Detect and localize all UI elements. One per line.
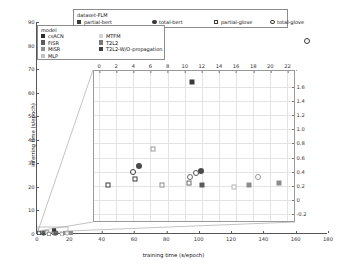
- inset-x-tick: 12: [199, 63, 206, 72]
- model-legend-entry[interactable]: FISR: [41, 40, 59, 46]
- inset-y-tick: 0: [294, 197, 300, 203]
- inset-y-minor-tick: [294, 126, 295, 127]
- inset-axes: 0246810121416182022 -0.200.20.40.60.81.0…: [93, 70, 295, 222]
- outer-y-tick: 80: [28, 43, 37, 49]
- inset-x-minor-tick: [129, 70, 130, 71]
- inset-y-minor-tick: [294, 108, 295, 109]
- inset-gridline-v: [185, 71, 186, 221]
- inset-x-tick: 14: [216, 63, 223, 72]
- inset-y-tick: 1.2: [294, 112, 305, 118]
- model-legend-entry[interactable]: MTFM: [99, 33, 120, 39]
- inset-gridline-h: [94, 186, 294, 187]
- inset-x-tick: 8: [166, 63, 169, 72]
- dataset-legend-entry[interactable]: total-glove: [270, 19, 304, 25]
- data-point-marker: [304, 38, 310, 44]
- inset-x-minor-tick: [189, 70, 190, 71]
- inset-gridline-v: [287, 71, 288, 221]
- inset-y-minor-tick: [294, 83, 295, 84]
- inset-y-minor-tick: [294, 151, 295, 152]
- inset-x-minor-tick: [240, 70, 241, 71]
- inset-y-minor-tick: [294, 197, 295, 198]
- inset-y-minor-tick: [294, 133, 295, 134]
- inset-gridline-h: [94, 200, 294, 201]
- inset-x-minor-tick: [125, 70, 126, 71]
- data-point-marker: [160, 183, 165, 188]
- inset-y-minor-tick: [294, 161, 295, 162]
- model-legend-marker: [99, 40, 103, 44]
- model-legend[interactable]: model csACNFISRMISRMLPMTFMT2L2T2L2-W/O-p…: [37, 25, 165, 60]
- inset-x-minor-tick: [257, 70, 258, 71]
- inset-x-tick: 20: [267, 63, 274, 72]
- data-point-marker: [231, 184, 236, 189]
- data-point-marker: [133, 176, 138, 181]
- model-legend-marker: [41, 54, 45, 58]
- inset-y-minor-tick: [294, 119, 295, 120]
- inset-y-minor-tick: [294, 154, 295, 155]
- model-legend-entry[interactable]: T2L2: [99, 40, 118, 46]
- outer-x-tick: 140: [258, 233, 268, 242]
- inset-x-minor-tick: [163, 70, 164, 71]
- chart-figure: 0102030405060708090 02040608010012014016…: [0, 0, 347, 270]
- model-legend-label: MLP: [48, 53, 58, 59]
- inset-gridline-h: [94, 158, 294, 159]
- inset-gridline-v: [99, 71, 100, 221]
- outer-x-tick: 80: [163, 233, 170, 242]
- model-legend-entry[interactable]: MISR: [41, 46, 60, 52]
- data-point-marker: [246, 182, 251, 187]
- outer-y-tick: 90: [28, 19, 37, 25]
- inset-x-minor-tick: [108, 70, 109, 71]
- x-axis-label: training time (s/epoch): [143, 252, 205, 258]
- dataset-legend-marker: [214, 20, 218, 24]
- inset-x-minor-tick: [193, 70, 194, 71]
- inset-y-minor-tick: [294, 175, 295, 176]
- inset-y-minor-tick: [294, 179, 295, 180]
- inset-x-minor-tick: [142, 70, 143, 71]
- model-legend-label: T2L2-W/O-propagation: [106, 46, 163, 52]
- model-legend-marker: [41, 47, 45, 51]
- inset-x-minor-tick: [245, 70, 246, 71]
- inset-x-minor-tick: [210, 70, 211, 71]
- dataset-legend-marker: [77, 20, 81, 24]
- model-legend-entry[interactable]: T2L2-W/O-propagation: [99, 46, 162, 52]
- inset-x-tick: 16: [233, 63, 240, 72]
- data-point-marker: [189, 79, 194, 84]
- outer-x-tick: 120: [226, 233, 236, 242]
- inset-x-tick: 2: [115, 63, 118, 72]
- outer-y-tick: 70: [28, 66, 37, 72]
- inset-gridline-v: [236, 71, 237, 221]
- inset-y-tick: 0.8: [294, 140, 305, 146]
- inset-x-minor-tick: [262, 70, 263, 71]
- outer-x-tick: 180: [323, 233, 333, 242]
- inset-y-minor-tick: [294, 94, 295, 95]
- inset-y-minor-tick: [294, 136, 295, 137]
- inset-y-tick: 0.4: [294, 169, 305, 175]
- inset-y-minor-tick: [294, 207, 295, 208]
- model-legend-label: MISR: [48, 46, 60, 52]
- model-legend-entry[interactable]: MLP: [41, 53, 58, 59]
- model-legend-entry[interactable]: csACN: [41, 33, 64, 39]
- inset-gridline-v: [219, 71, 220, 221]
- inset-y-minor-tick: [294, 104, 295, 105]
- model-legend-label: T2L2: [106, 40, 118, 46]
- inset-y-tick: 1.6: [294, 84, 305, 90]
- outer-x-tick: 100: [194, 233, 204, 242]
- inset-x-tick: 10: [181, 63, 188, 72]
- inset-y-minor-tick: [294, 190, 295, 191]
- dataset-legend-entry[interactable]: partial-glove: [214, 19, 252, 25]
- inset-x-tick: 4: [132, 63, 135, 72]
- inset-x-minor-tick: [121, 70, 122, 71]
- inset-x-minor-tick: [228, 70, 229, 71]
- data-point-marker: [276, 181, 281, 186]
- inset-x-minor-tick: [103, 70, 104, 71]
- inset-y-minor-tick: [294, 147, 295, 148]
- inset-gridline-h: [94, 115, 294, 116]
- inset-x-minor-tick: [159, 70, 160, 71]
- outer-y-tick: 60: [28, 90, 37, 96]
- dataset-legend-marker: [152, 20, 157, 25]
- inset-y-minor-tick: [294, 97, 295, 98]
- inset-y-tick: 1.4: [294, 98, 305, 104]
- model-legend-label: csACN: [48, 33, 64, 39]
- dataset-legend-label: partial-glove: [221, 19, 253, 25]
- inset-y-minor-tick: [294, 140, 295, 141]
- inset-x-tick: 22: [284, 63, 291, 72]
